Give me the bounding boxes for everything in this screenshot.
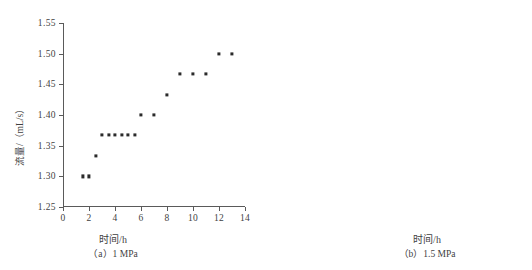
x-tick-a-1 (89, 207, 90, 211)
data-point-a-10 (152, 113, 155, 116)
y-tick-label-a-0: 1.25 (38, 202, 56, 212)
y-tick-label-a-6: 1.55 (38, 18, 56, 28)
data-point-a-14 (204, 72, 207, 75)
data-point-a-16 (230, 52, 233, 55)
y-tick-a-1 (59, 176, 63, 177)
x-tick-label-a-2: 4 (112, 213, 117, 223)
data-point-a-9 (139, 113, 142, 116)
x-tick-a-2 (115, 207, 116, 211)
data-point-a-11 (165, 93, 168, 96)
y-tick-label-a-2: 1.35 (38, 141, 56, 151)
panel-a: 流量/（mL/s） 1.251.301.351.401.451.501.5502… (0, 0, 266, 270)
y-axis-label-a: 流量/（mL/s） (8, 0, 30, 270)
data-point-a-0 (81, 175, 84, 178)
figure-two-panel-scatter: 流量/（mL/s） 1.251.301.351.401.451.501.5502… (0, 0, 532, 270)
y-tick-label-a-3: 1.40 (38, 110, 56, 120)
x-tick-label-a-7: 14 (240, 213, 250, 223)
y-tick-a-4 (59, 84, 63, 85)
plot-area-a: 1.251.301.351.401.451.501.5502468101214 (63, 23, 245, 207)
panel-caption-a: （a）1 MPa (0, 246, 246, 260)
data-point-a-13 (191, 72, 194, 75)
x-axis-line-a (63, 206, 245, 207)
data-point-a-7 (126, 134, 129, 137)
data-point-a-3 (100, 134, 103, 137)
y-tick-label-a-1: 1.30 (38, 171, 56, 181)
x-tick-a-6 (219, 207, 220, 211)
x-tick-label-a-6: 12 (214, 213, 224, 223)
data-point-a-15 (217, 52, 220, 55)
x-tick-a-4 (167, 207, 168, 211)
data-point-a-5 (113, 134, 116, 137)
data-point-a-8 (133, 134, 136, 137)
panel-b: 流量/（mL/s） 3.33.43.53.63.70123456789 时间/h… (266, 0, 532, 270)
data-point-a-2 (94, 154, 97, 157)
x-tick-a-5 (193, 207, 194, 211)
data-point-a-12 (178, 72, 181, 75)
x-tick-a-0 (63, 207, 64, 211)
x-axis-label-b: 时间/h (294, 231, 532, 246)
y-tick-a-2 (59, 146, 63, 147)
y-axis-line-a (63, 23, 64, 207)
x-tick-a-7 (245, 207, 246, 211)
x-axis-label-a: 时间/h (0, 231, 246, 246)
x-tick-a-3 (141, 207, 142, 211)
x-tick-label-a-3: 6 (138, 213, 143, 223)
y-tick-a-5 (59, 54, 63, 55)
data-point-a-4 (107, 134, 110, 137)
x-tick-label-a-1: 2 (86, 213, 91, 223)
data-point-a-6 (120, 134, 123, 137)
panel-caption-b: （b）1.5 MPa (294, 246, 532, 260)
y-tick-label-a-5: 1.50 (38, 49, 56, 59)
x-tick-label-a-5: 10 (188, 213, 198, 223)
y-tick-a-6 (59, 23, 63, 24)
x-tick-label-a-0: 0 (60, 213, 65, 223)
data-point-a-1 (87, 175, 90, 178)
y-tick-label-a-4: 1.45 (38, 79, 56, 89)
y-tick-a-3 (59, 115, 63, 116)
x-tick-label-a-4: 8 (164, 213, 169, 223)
